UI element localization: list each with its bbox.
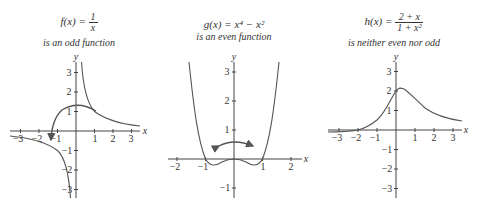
svg-text:−3: −3 [62,184,73,195]
f-axes [10,62,140,198]
svg-text:x: x [463,124,469,135]
svg-text:−2: −2 [351,132,362,143]
svg-text:−3: −3 [332,132,343,143]
svg-text:−2: −2 [170,161,181,172]
svg-text:y: y [231,51,237,62]
svg-text:2: 2 [387,85,392,96]
svg-text:y: y [73,51,79,62]
svg-text:x: x [142,125,148,136]
svg-text:1: 1 [225,124,230,135]
svg-text:3: 3 [129,133,134,144]
g-axes [168,62,302,198]
svg-text:x: x [303,153,309,164]
svg-text:−3: −3 [13,133,24,144]
svg-text:2: 2 [432,132,437,143]
g-reflection-arrow [219,142,253,146]
svg-text:−1: −1 [370,132,381,143]
svg-text:2: 2 [67,86,72,97]
svg-text:−3: −3 [382,183,393,194]
svg-text:1: 1 [93,133,98,144]
svg-text:3: 3 [67,67,72,78]
svg-text:1: 1 [261,161,266,172]
svg-text:2: 2 [111,133,116,144]
f-curve [10,62,140,198]
svg-text:1: 1 [413,132,418,143]
svg-text:−1: −1 [51,133,62,144]
svg-text:3: 3 [387,66,392,77]
svg-text:−1: −1 [62,145,73,156]
h-tick-labels: −3 −2 −1 1 2 3 3 2 1 −1 −2 −3 x y [332,51,469,194]
svg-text:2: 2 [225,95,230,106]
svg-text:−2: −2 [382,163,393,174]
svg-text:3: 3 [451,132,456,143]
svg-text:−1: −1 [198,161,209,172]
svg-text:−1: −1 [220,182,231,193]
plots-canvas: −3 −2 −1 1 2 3 3 2 1 −1 −2 −3 x y −2 −1 … [0,0,478,208]
svg-text:−1: −1 [382,144,393,155]
svg-text:2: 2 [289,161,294,172]
f-tick-labels: −3 −2 −1 1 2 3 3 2 1 −1 −2 −3 x y [13,51,148,195]
svg-text:y: y [393,51,399,62]
svg-text:3: 3 [225,66,230,77]
h-axes [328,62,462,198]
